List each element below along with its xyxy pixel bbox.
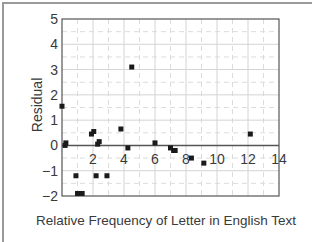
grid-lines — [62, 19, 279, 196]
y-tick-label: 0 — [50, 137, 58, 153]
x-tick-label: 4 — [120, 151, 128, 167]
x-tick-label: 8 — [182, 151, 190, 167]
x-tick-label: 12 — [240, 151, 256, 167]
data-point — [94, 173, 99, 178]
data-point — [63, 140, 68, 145]
data-point — [153, 140, 158, 145]
x-axis-label: Relative Frequency of Letter in English … — [36, 213, 296, 228]
x-tick-label: 10 — [209, 151, 225, 167]
y-tick-label: 5 — [50, 11, 58, 27]
y-tick-label: 4 — [50, 36, 58, 52]
x-tick-label: 6 — [151, 151, 159, 167]
data-points — [60, 65, 253, 196]
data-point — [125, 145, 130, 150]
data-point — [73, 173, 78, 178]
data-point — [173, 148, 178, 153]
data-point — [118, 126, 123, 131]
data-point — [75, 191, 80, 196]
data-point — [201, 161, 206, 166]
data-point — [80, 191, 85, 196]
x-tick-label: 2 — [89, 151, 97, 167]
y-axis-label: Residual — [29, 78, 45, 132]
y-tick-label: −1 — [42, 163, 58, 179]
data-point — [189, 156, 194, 161]
data-point — [104, 173, 109, 178]
y-tick-label: −2 — [42, 188, 58, 204]
y-tick-label: 3 — [50, 62, 58, 78]
data-point — [129, 65, 134, 70]
data-point — [91, 129, 96, 134]
x-tick-labels: 2468101214 — [89, 151, 287, 167]
data-point — [97, 139, 102, 144]
x-tick-label: 14 — [271, 151, 287, 167]
y-tick-label: 2 — [50, 87, 58, 103]
y-tick-label: 1 — [50, 112, 58, 128]
data-point — [248, 132, 253, 137]
data-point — [60, 104, 65, 109]
